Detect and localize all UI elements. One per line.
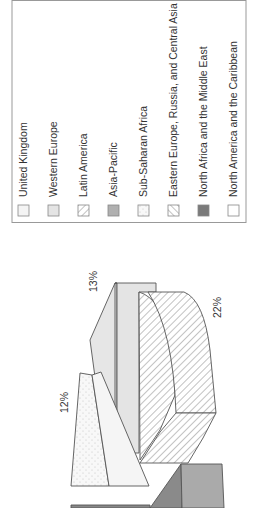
legend-label-sub-saharan-africa: Sub-Saharan Africa [137, 106, 149, 197]
legend-swatch-sub-saharan-africa [138, 205, 149, 216]
legend-swatch-western-europe [48, 205, 59, 216]
legend-swatch-latin-america [78, 205, 89, 216]
legend: United Kingdom Western Europe Latin Amer… [12, 1, 246, 223]
legend-label-north-america: North America and the Caribbean [227, 41, 239, 197]
legend-swatch-north-america [228, 205, 239, 216]
legend-swatch-united-kingdom [18, 205, 29, 216]
legend-label-united-kingdom: United Kingdom [17, 122, 29, 197]
legend-swatch-north-africa [198, 205, 209, 216]
legend-label-north-africa: North Africa and the Middle East [197, 46, 209, 197]
label-pct-22: 22% [211, 297, 223, 318]
label-pct-13: 13% [87, 271, 99, 292]
slice-north-africa-side [150, 464, 182, 508]
legend-label-eastern-europe: Eastern Europe, Russia, and Central Asia [167, 3, 179, 197]
legend-label-asia-pacific: Asia-Pacific [107, 142, 119, 197]
legend-label-western-europe: Western Europe [47, 121, 59, 197]
exploded-pie-chart: United Kingdom Western Europe Latin Amer… [0, 0, 259, 508]
pie-slices [71, 283, 224, 508]
label-pct-12: 12% [58, 392, 70, 413]
slice-asia-pacific-top [181, 464, 224, 508]
legend-swatch-eastern-europe [168, 205, 179, 216]
legend-swatch-asia-pacific [108, 205, 119, 216]
legend-label-latin-america: Latin America [77, 133, 89, 197]
